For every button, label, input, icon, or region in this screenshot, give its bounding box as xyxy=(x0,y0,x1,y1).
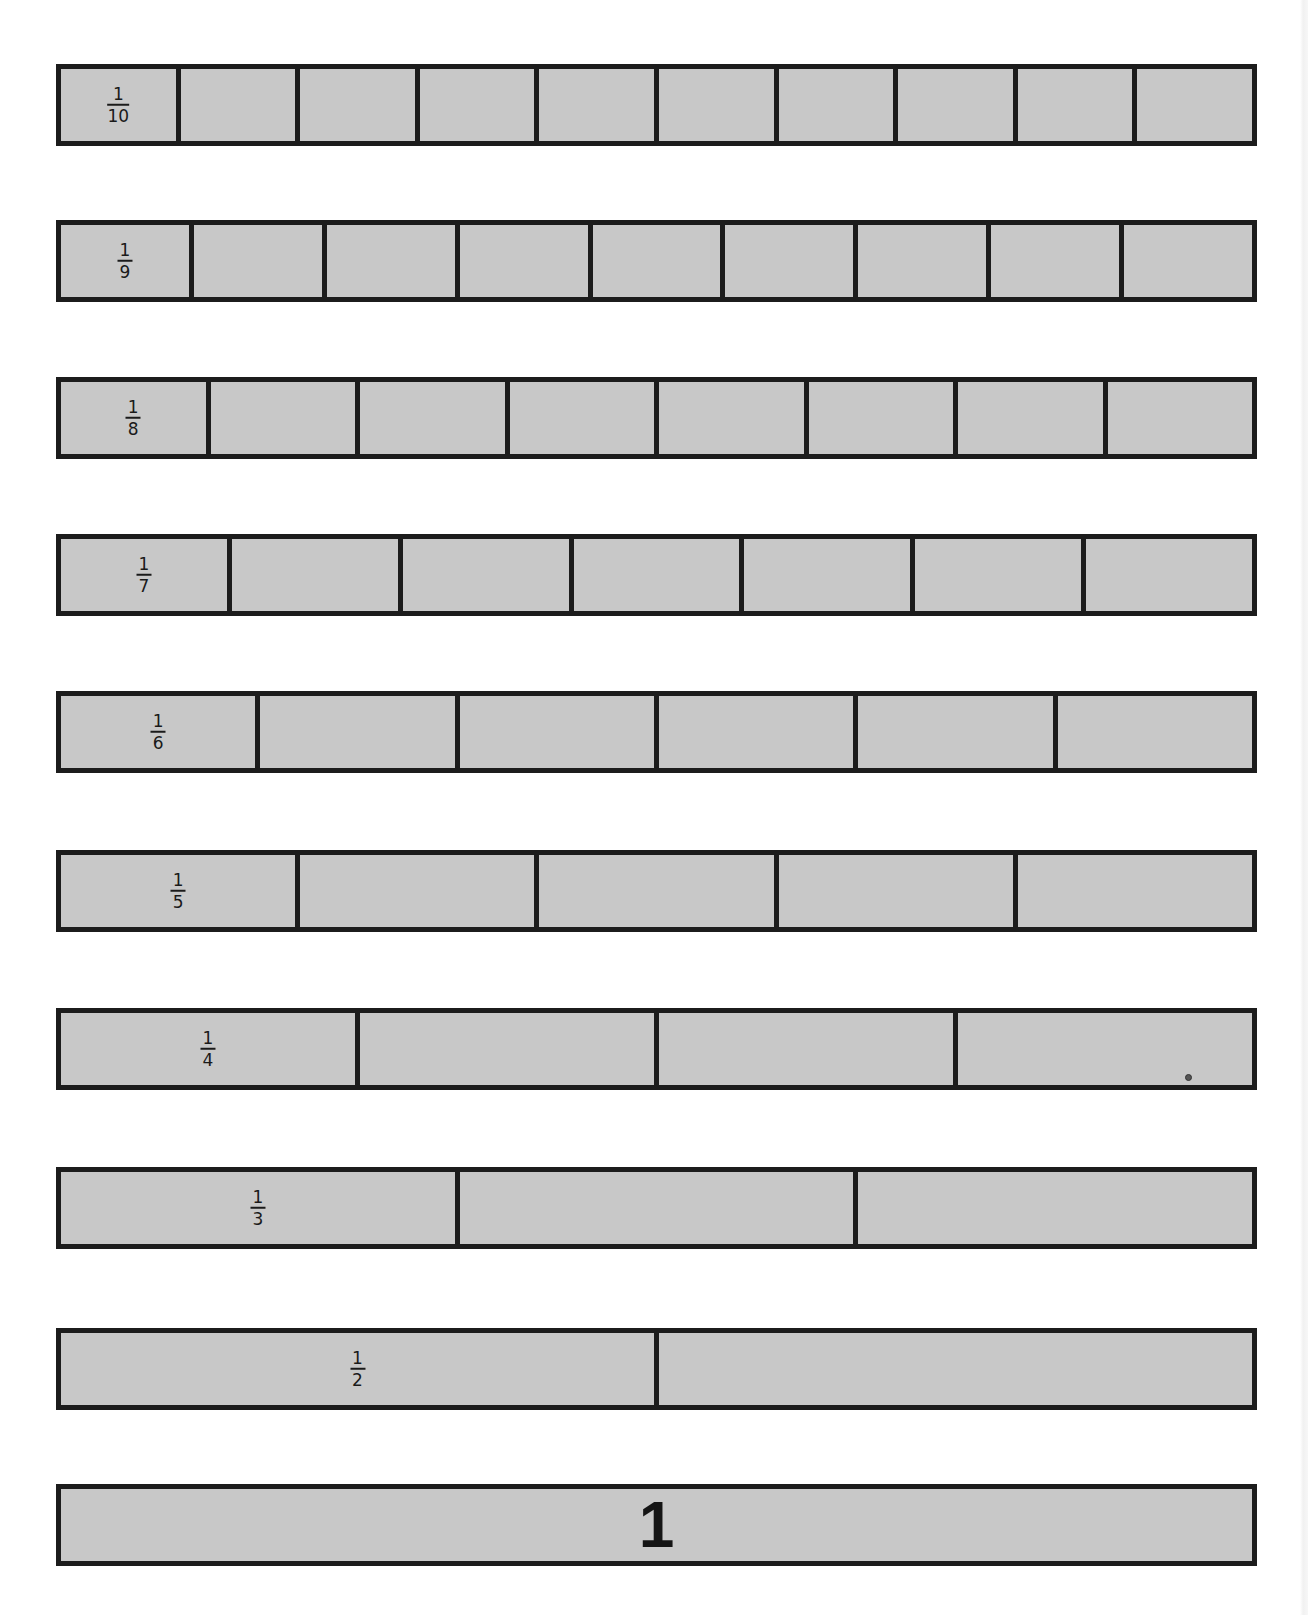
fraction-denominator: 10 xyxy=(107,107,129,124)
strip-cell xyxy=(455,1172,854,1244)
strip-cell xyxy=(953,382,1103,454)
strip-cell xyxy=(654,69,774,141)
strip-cell: 15 xyxy=(61,855,295,927)
fraction-numerator: 1 xyxy=(120,242,131,259)
fraction-denominator: 2 xyxy=(352,1371,363,1388)
fraction-label: 13 xyxy=(250,1189,265,1228)
fraction-label: 15 xyxy=(171,872,186,911)
strip-cell xyxy=(176,69,296,141)
strip-cell xyxy=(588,225,721,297)
fraction-strip-thirds: 13 xyxy=(56,1167,1257,1249)
strip-cell xyxy=(910,539,1081,611)
fraction-strip-fourths: 14 xyxy=(56,1008,1257,1090)
fraction-denominator: 9 xyxy=(120,263,131,280)
fraction-strip-ninths: 19 xyxy=(56,220,1257,302)
whole-label: 1 xyxy=(639,1493,675,1557)
fraction-strip-sevenths: 17 xyxy=(56,534,1257,616)
strip-cell xyxy=(1132,69,1252,141)
strip-cell xyxy=(654,696,853,768)
strip-cell xyxy=(774,855,1013,927)
fraction-numerator: 1 xyxy=(352,1350,363,1367)
fraction-numerator: 1 xyxy=(113,86,124,103)
strip-cell xyxy=(804,382,954,454)
fraction-numerator: 1 xyxy=(153,713,164,730)
strip-cell xyxy=(853,1172,1252,1244)
dot-mark xyxy=(1185,1074,1192,1081)
strip-cell xyxy=(398,539,569,611)
strip-cell xyxy=(355,1013,654,1085)
strip-cell xyxy=(654,1013,953,1085)
strip-cell xyxy=(1053,696,1252,768)
strip-cell xyxy=(774,69,894,141)
fraction-numerator: 1 xyxy=(203,1030,214,1047)
strip-cell: 18 xyxy=(61,382,206,454)
strip-cell xyxy=(853,225,986,297)
strip-cell xyxy=(295,855,534,927)
strip-cell xyxy=(455,225,588,297)
strip-cell xyxy=(322,225,455,297)
fraction-strip-tenths: 110 xyxy=(56,64,1257,146)
strip-cell xyxy=(953,1013,1252,1085)
strip-cell xyxy=(1081,539,1252,611)
page-edge-band xyxy=(1300,0,1308,1615)
strip-cell: 16 xyxy=(61,696,255,768)
strip-cell: 17 xyxy=(61,539,227,611)
strip-cell xyxy=(654,382,804,454)
strip-cell: 110 xyxy=(61,69,176,141)
strip-cell: 13 xyxy=(61,1172,455,1244)
strip-cell xyxy=(505,382,655,454)
fraction-label: 19 xyxy=(117,242,132,281)
strip-cell xyxy=(455,696,654,768)
strip-cell xyxy=(415,69,535,141)
fraction-denominator: 5 xyxy=(173,893,184,910)
fraction-strip-halves: 12 xyxy=(56,1328,1257,1410)
fraction-numerator: 1 xyxy=(139,556,150,573)
fraction-strip-sixths: 16 xyxy=(56,691,1257,773)
fraction-label: 12 xyxy=(350,1350,365,1389)
fraction-denominator: 7 xyxy=(139,577,150,594)
strip-cell xyxy=(227,539,398,611)
strip-cell xyxy=(255,696,454,768)
fraction-strip-whole: 1 xyxy=(56,1484,1257,1566)
strip-cell: 14 xyxy=(61,1013,355,1085)
fraction-denominator: 6 xyxy=(153,734,164,751)
strip-cell xyxy=(206,382,356,454)
fraction-numerator: 1 xyxy=(128,399,139,416)
strip-cell xyxy=(739,539,910,611)
strip-cell xyxy=(189,225,322,297)
fraction-denominator: 4 xyxy=(203,1051,214,1068)
fraction-label: 16 xyxy=(151,713,166,752)
fraction-label: 110 xyxy=(107,86,129,125)
strip-cell xyxy=(534,855,773,927)
strip-cell xyxy=(1103,382,1253,454)
fraction-label: 14 xyxy=(201,1030,216,1069)
strip-cell xyxy=(295,69,415,141)
strip-cell xyxy=(1013,69,1133,141)
fraction-numerator: 1 xyxy=(173,872,184,889)
strip-cell: 19 xyxy=(61,225,189,297)
fraction-label: 18 xyxy=(126,399,141,438)
strip-cell xyxy=(355,382,505,454)
strip-cell: 12 xyxy=(61,1333,654,1405)
fraction-strip-fifths: 15 xyxy=(56,850,1257,932)
strip-cell xyxy=(1119,225,1252,297)
strip-cell xyxy=(534,69,654,141)
fraction-label: 17 xyxy=(136,556,151,595)
strip-cell xyxy=(720,225,853,297)
strip-cell xyxy=(893,69,1013,141)
strip-cell xyxy=(569,539,740,611)
fraction-strip-eighths: 18 xyxy=(56,377,1257,459)
fraction-denominator: 8 xyxy=(128,420,139,437)
strip-cell xyxy=(1013,855,1252,927)
strip-cell: 1 xyxy=(61,1489,1252,1561)
fraction-denominator: 3 xyxy=(252,1210,263,1227)
strip-cell xyxy=(654,1333,1252,1405)
fraction-numerator: 1 xyxy=(252,1189,263,1206)
strip-cell xyxy=(853,696,1052,768)
strip-cell xyxy=(986,225,1119,297)
